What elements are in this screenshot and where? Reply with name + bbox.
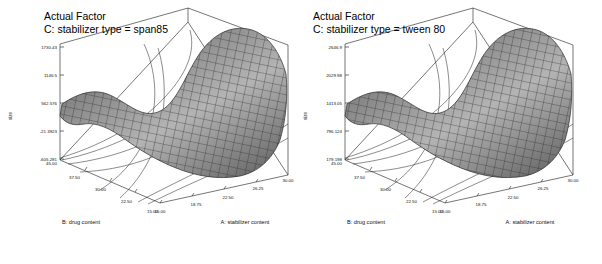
z-axis-label: size xyxy=(8,111,13,120)
x-tick-label: 26.25 xyxy=(538,186,550,191)
y-tick-label: 37.50 xyxy=(354,175,366,180)
x-tick-label: 22.50 xyxy=(508,195,520,200)
y-tick-label: 30.00 xyxy=(380,187,392,192)
x-axis-label: A: stabilizer content xyxy=(506,219,555,225)
x-axis-label: A: stabilizer content xyxy=(221,219,270,225)
surface-plot-span85: 1730.43 1146.5 562.576 -21.3923 -605.281… xyxy=(0,0,301,264)
x-tick-label: 30.00 xyxy=(568,178,580,183)
z-tick-label: 796.124 xyxy=(326,129,342,134)
surface-gridlines xyxy=(345,28,572,177)
y-tick-label: 45.00 xyxy=(46,161,58,166)
surface-gridlines xyxy=(60,28,287,177)
z-tick-label: 2029.98 xyxy=(326,73,342,78)
surface-panel-span85: Actual Factor C: stabilizer type = span8… xyxy=(0,0,301,264)
x-tick-label: 18.75 xyxy=(191,202,203,207)
y-ticks-tween80 xyxy=(370,167,422,192)
y-axis-label: B: drug content xyxy=(62,219,100,225)
z-axis-label: size xyxy=(303,111,308,120)
z-tick-label: 1146.5 xyxy=(44,73,58,78)
z-tick-label: 1730.43 xyxy=(41,45,57,50)
x-tick-label: 30.00 xyxy=(283,178,295,183)
z-tick-label: -21.3923 xyxy=(40,129,58,134)
surface-mesh-tween80 xyxy=(345,28,572,177)
z-tick-label: 562.576 xyxy=(41,101,57,106)
y-tick-label: 22.50 xyxy=(121,199,133,204)
x-tick-label: 22.50 xyxy=(223,195,235,200)
figure-root: Actual Factor C: stabilizer type = span8… xyxy=(0,0,602,264)
z-tick-label: 1413.05 xyxy=(326,101,342,106)
y-tick-label: 15.00 xyxy=(432,209,444,214)
top-back-edge-left xyxy=(60,8,188,44)
z-tick-label: 2646.9 xyxy=(329,45,343,50)
y-ticks-span85 xyxy=(85,167,137,192)
x-tick-label: 26.25 xyxy=(253,186,265,191)
x-tick-label: 18.75 xyxy=(476,202,488,207)
y-tick-label: 45.00 xyxy=(331,161,343,166)
surface-plot-tween80: 2646.9 2029.98 1413.05 796.124 179.198 s… xyxy=(301,0,602,264)
surface-mesh-span85 xyxy=(60,28,287,177)
y-tick-label: 22.50 xyxy=(406,199,418,204)
top-back-edge-left xyxy=(345,8,473,44)
y-axis-label: B: drug content xyxy=(347,219,385,225)
y-tick-label: 37.50 xyxy=(69,175,81,180)
surface-panel-tween80: Actual Factor C: stabilizer type = tween… xyxy=(301,0,602,264)
y-tick-label: 15.00 xyxy=(147,209,159,214)
y-tick-label: 30.00 xyxy=(95,187,107,192)
